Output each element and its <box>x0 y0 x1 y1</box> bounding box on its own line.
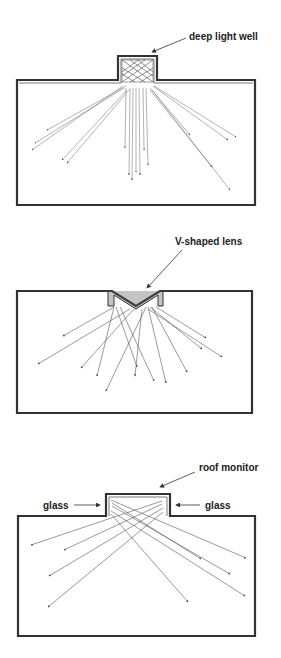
light-rays <box>32 86 236 190</box>
label-glass-right: glass <box>205 500 231 511</box>
panel-v-shaped-lens: V-shaped lens <box>17 236 252 413</box>
skylight-diagrams: deep light well V-shaped lens <box>0 0 281 658</box>
panel-roof-monitor: roof monitor glass glass <box>18 462 259 636</box>
light-rays <box>38 307 222 391</box>
label-v-shaped-lens: V-shaped lens <box>175 236 243 247</box>
label-roof-monitor: roof monitor <box>199 462 259 473</box>
label-deep-light-well: deep light well <box>189 31 258 42</box>
panel-deep-light-well: deep light well <box>17 31 258 205</box>
label-glass-left: glass <box>43 500 69 511</box>
well-reflection-hatch <box>122 60 153 82</box>
